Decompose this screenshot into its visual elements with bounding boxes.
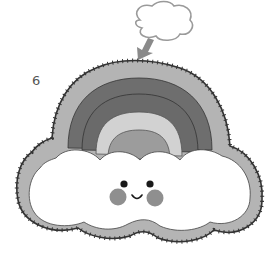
thought-cloud-icon (136, 2, 193, 41)
illustration: 6 (0, 0, 278, 254)
left-cheek (110, 189, 127, 206)
step-number: 6 (32, 73, 40, 88)
right-eye (146, 180, 153, 187)
arrow-down-icon (137, 38, 154, 60)
right-cheek (147, 190, 164, 207)
left-eye (120, 180, 127, 187)
rainbow-cloud-plush (17, 61, 262, 242)
